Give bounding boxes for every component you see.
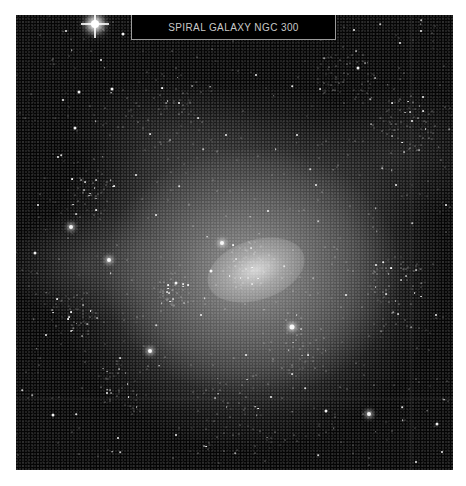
star (317, 200, 318, 201)
star (355, 50, 357, 52)
star (295, 339, 296, 340)
star (254, 198, 255, 199)
star (56, 298, 58, 300)
star (414, 109, 415, 110)
star (400, 268, 401, 269)
star (395, 102, 396, 103)
star (205, 428, 206, 429)
star (127, 383, 129, 385)
star (416, 348, 417, 349)
star (180, 126, 181, 127)
star (247, 251, 248, 252)
star (220, 390, 221, 391)
star (403, 151, 405, 153)
star (155, 214, 157, 216)
star (293, 342, 295, 344)
star (106, 392, 108, 394)
star (294, 434, 295, 435)
star (242, 384, 243, 385)
star (391, 117, 392, 118)
star (225, 134, 227, 136)
star (395, 123, 396, 124)
star (122, 33, 125, 36)
star (170, 342, 171, 343)
star (108, 450, 109, 451)
star (201, 122, 202, 123)
star (312, 278, 314, 280)
star (112, 451, 114, 453)
star (51, 60, 52, 61)
star (391, 170, 393, 172)
star (168, 293, 169, 294)
star (106, 184, 107, 185)
star (307, 115, 308, 116)
star (273, 95, 275, 97)
star (246, 379, 248, 381)
star (140, 410, 141, 411)
star (210, 86, 212, 88)
star (216, 60, 217, 61)
star (217, 378, 219, 380)
star (375, 292, 376, 293)
star (192, 300, 193, 301)
caption-box: SPIRAL GALAXY NGC 300 (131, 15, 336, 40)
star (101, 193, 102, 194)
star (367, 412, 371, 416)
star (69, 309, 70, 310)
star (213, 421, 214, 422)
star (53, 64, 54, 65)
star (326, 141, 327, 142)
star (339, 387, 340, 388)
star (257, 278, 259, 280)
star (253, 269, 254, 270)
star (58, 259, 59, 260)
star (291, 86, 293, 88)
star (288, 313, 289, 314)
star (400, 98, 401, 99)
star (113, 185, 115, 187)
star (86, 293, 87, 294)
star (210, 270, 213, 273)
star (88, 324, 89, 325)
star (106, 181, 107, 182)
star (409, 111, 411, 113)
star (112, 373, 113, 374)
star (177, 158, 178, 159)
star (110, 135, 111, 136)
star (258, 257, 259, 258)
star (410, 96, 411, 97)
star (182, 286, 184, 288)
star (373, 324, 374, 325)
star (102, 125, 103, 126)
star (255, 74, 257, 76)
star (363, 414, 364, 415)
star (175, 434, 177, 436)
star (160, 141, 161, 142)
star (407, 125, 408, 126)
star (354, 140, 355, 141)
star (434, 126, 435, 127)
star (167, 285, 169, 287)
star (170, 171, 171, 172)
star (241, 265, 242, 266)
star (234, 277, 235, 278)
star (392, 135, 394, 137)
star (397, 138, 398, 139)
star (420, 136, 421, 137)
star (358, 94, 359, 95)
star (348, 140, 349, 141)
star (419, 328, 420, 329)
star (289, 373, 290, 374)
star (369, 83, 370, 84)
star (404, 319, 405, 320)
star (256, 414, 258, 416)
star (40, 193, 41, 194)
star (106, 201, 107, 202)
star (109, 398, 110, 399)
star (432, 48, 433, 49)
star (163, 282, 164, 283)
star (367, 294, 368, 295)
star (235, 266, 236, 267)
star (326, 73, 327, 74)
star (416, 379, 417, 380)
